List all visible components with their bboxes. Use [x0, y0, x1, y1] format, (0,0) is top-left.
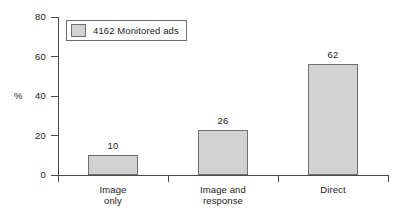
- bar-chart: % 020406080 102662 Image onlyImage and r…: [0, 0, 402, 215]
- bar-value-label: 10: [58, 141, 168, 151]
- y-axis-title: %: [14, 91, 22, 101]
- y-tick-mark: [51, 175, 58, 176]
- chart-legend: 4162 Monitored ads: [66, 20, 187, 41]
- y-tick-label: 0: [41, 170, 46, 180]
- x-tick-mark: [168, 175, 169, 182]
- bar: [88, 155, 139, 175]
- bar-value-label: 62: [278, 50, 388, 60]
- x-tick-mark: [58, 175, 59, 182]
- bar-value-label: 26: [168, 116, 278, 126]
- bar: [308, 64, 359, 175]
- y-tick-label: 80: [35, 12, 46, 22]
- legend-swatch-icon: [71, 24, 86, 37]
- y-tick-label: 60: [35, 52, 46, 62]
- bar: [198, 130, 249, 175]
- y-tick-mark: [51, 17, 58, 18]
- category-label: Image only: [58, 184, 168, 206]
- category-label: Image and response: [168, 184, 278, 206]
- x-axis-line: [58, 175, 388, 176]
- x-tick-mark: [388, 175, 389, 182]
- y-tick-label: 40: [35, 91, 46, 101]
- x-tick-mark: [278, 175, 279, 182]
- legend-label: 4162 Monitored ads: [93, 25, 179, 36]
- category-label: Direct: [278, 184, 388, 195]
- y-tick-label: 20: [35, 131, 46, 141]
- y-tick-mark: [51, 96, 58, 97]
- y-tick-mark: [51, 56, 58, 57]
- y-tick-mark: [51, 135, 58, 136]
